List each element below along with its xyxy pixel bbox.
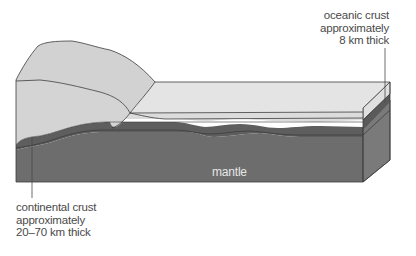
oceanic-label-line-3: 8 km thick [320,34,389,47]
continental-crust-label: continental crust approximately 20–70 km… [16,201,96,239]
oceanic-label-line-1: oceanic crust [320,9,389,22]
continental-label-line-1: continental crust [16,201,96,214]
oceanic-label-line-2: approximately [320,22,389,35]
mantle-front-face [16,132,363,182]
continental-label-line-3: 20–70 km thick [16,226,96,239]
oceanic-crust-top [130,82,390,113]
continental-label-line-2: approximately [16,214,96,227]
oceanic-crust-front-face [125,112,363,122]
oceanic-crust-label: oceanic crust approximately 8 km thick [320,9,389,47]
mantle-label: mantle [212,165,247,179]
